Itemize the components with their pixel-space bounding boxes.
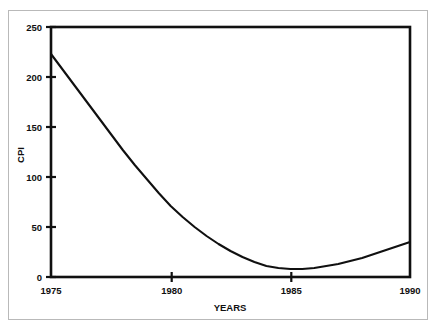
y-tick-label-200: 200 (26, 72, 42, 83)
y-tick-label-50: 50 (31, 222, 42, 233)
plot-area-frame (51, 27, 410, 277)
line-chart: 0 50 100 150 200 250 1975 1980 1985 1990… (0, 0, 439, 329)
x-tick-label-1975: 1975 (40, 285, 62, 296)
y-tick-label-100: 100 (26, 172, 42, 183)
x-axis-tick-labels: 1975 1980 1985 1990 (40, 285, 420, 296)
data-series-cpi (51, 54, 410, 269)
y-tick-label-250: 250 (26, 22, 42, 33)
x-tick-label-1980: 1980 (161, 285, 182, 296)
x-axis-title: YEARS (214, 302, 247, 313)
x-tick-label-1990: 1990 (399, 285, 420, 296)
y-tick-label-150: 150 (26, 122, 42, 133)
y-axis-tick-labels: 0 50 100 150 200 250 (26, 22, 42, 283)
x-tick-label-1985: 1985 (281, 285, 303, 296)
y-axis-title: CPI (15, 147, 26, 163)
chart-figure: 0 50 100 150 200 250 1975 1980 1985 1990… (0, 0, 439, 329)
y-tick-label-0: 0 (37, 272, 42, 283)
